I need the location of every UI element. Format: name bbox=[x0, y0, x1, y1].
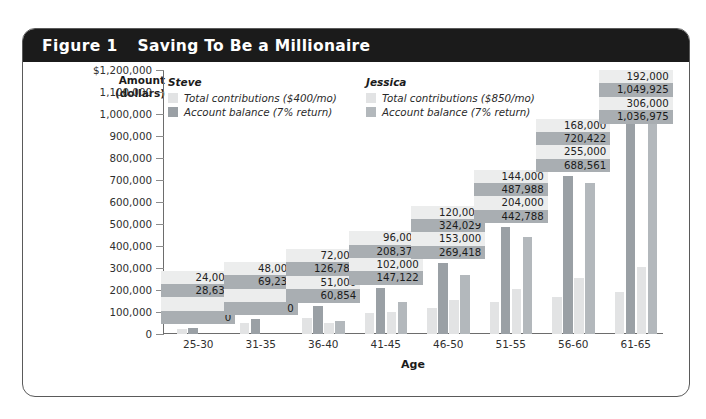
x-axis-label-61-65: 61-65 bbox=[620, 338, 651, 350]
value-label-stack-61-65: 192,0001,049,925306,0001,036,975 bbox=[599, 70, 673, 124]
y-axis-tick-label: 500,000 bbox=[109, 218, 152, 230]
y-axis-tick bbox=[156, 158, 164, 159]
y-axis-tick-label: 1,000,000 bbox=[100, 108, 152, 120]
figure-title: Saving To Be a Millionaire bbox=[138, 37, 371, 55]
y-axis-tick-label: 300,000 bbox=[109, 262, 152, 274]
bar-jess_contrib-61-65 bbox=[637, 267, 647, 334]
bar-jess_balance-46-50 bbox=[460, 275, 470, 334]
figure-header-bar: Figure 1 Saving To Be a Millionaire bbox=[23, 29, 689, 62]
bar-steve_contrib-25-30 bbox=[177, 329, 187, 334]
y-axis-tick-label: 100,000 bbox=[109, 306, 152, 318]
value-label-stack-56-60: 168,000720,422255,000688,561 bbox=[536, 119, 610, 173]
bar-steve_contrib-31-35 bbox=[240, 323, 250, 334]
bar-steve_contrib-46-50 bbox=[427, 308, 437, 334]
y-axis-tick bbox=[156, 92, 164, 93]
value-label-jess_balance-56-60: 688,561 bbox=[536, 159, 610, 172]
y-axis-tick bbox=[156, 114, 164, 115]
x-axis-label-41-45: 41-45 bbox=[370, 338, 401, 350]
bar-jess_balance-41-45 bbox=[398, 302, 408, 334]
y-axis-tick bbox=[156, 70, 164, 71]
value-label-stack-51-55: 144,000487,988204,000442,788 bbox=[474, 170, 548, 224]
y-axis-tick-label: 800,000 bbox=[109, 152, 152, 164]
bar-steve_balance-61-65 bbox=[626, 103, 636, 334]
y-axis-tick-label: 700,000 bbox=[109, 174, 152, 186]
y-axis-tick-label: 900,000 bbox=[109, 130, 152, 142]
x-axis-title: Age bbox=[163, 358, 663, 371]
bar-steve_balance-46-50 bbox=[438, 263, 448, 334]
value-label-jess_balance-51-55: 442,788 bbox=[474, 210, 548, 223]
chart-canvas: Amount (dollars) Steve Total contributio… bbox=[23, 62, 689, 397]
x-axis-label-36-40: 36-40 bbox=[308, 338, 339, 350]
value-label-steve_balance-56-60: 720,422 bbox=[536, 132, 610, 145]
value-label-jess_balance-46-50: 269,418 bbox=[411, 246, 485, 259]
x-axis-label-31-35: 31-35 bbox=[245, 338, 276, 350]
figure-frame: Figure 1 Saving To Be a Millionaire Amou… bbox=[22, 28, 690, 397]
x-axis-tick-labels: 25-3031-3536-4041-4546-5051-5556-6061-65 bbox=[163, 338, 663, 354]
x-axis-label-25-30: 25-30 bbox=[183, 338, 214, 350]
value-label-jess_contrib-46-50: 153,000 bbox=[411, 232, 485, 245]
bar-steve_contrib-61-65 bbox=[615, 292, 625, 334]
value-label-steve_balance-51-55: 487,988 bbox=[474, 183, 548, 196]
bar-steve_balance-36-40 bbox=[313, 306, 323, 334]
bar-steve_balance-41-45 bbox=[376, 288, 386, 334]
bar-steve_balance-31-35 bbox=[251, 319, 261, 334]
value-label-jess_balance-41-45: 147,122 bbox=[349, 271, 423, 284]
y-axis-tick-label: 400,000 bbox=[109, 240, 152, 252]
y-axis-tick bbox=[156, 334, 164, 335]
bar-jess_contrib-51-55 bbox=[512, 289, 522, 334]
y-axis-tick-label: 1,100,000 bbox=[100, 86, 152, 98]
value-label-jess_contrib-61-65: 306,000 bbox=[599, 97, 673, 110]
y-axis-tick-label: 200,000 bbox=[109, 284, 152, 296]
x-axis-label-46-50: 46-50 bbox=[433, 338, 464, 350]
bar-steve_balance-51-55 bbox=[501, 227, 511, 334]
x-axis-label-51-55: 51-55 bbox=[495, 338, 526, 350]
bar-jess_balance-61-65 bbox=[648, 106, 658, 334]
y-axis-tick bbox=[156, 202, 164, 203]
bar-steve_contrib-56-60 bbox=[552, 297, 562, 334]
y-axis-tick bbox=[156, 180, 164, 181]
bar-jess_balance-56-60 bbox=[585, 183, 595, 334]
y-axis-tick bbox=[156, 136, 164, 137]
value-label-steve_balance-61-65: 1,049,925 bbox=[599, 83, 673, 96]
value-label-jess_contrib-41-45: 102,000 bbox=[349, 258, 423, 271]
y-axis-tick-label: 0 bbox=[145, 328, 152, 340]
bar-jess_contrib-36-40 bbox=[324, 323, 334, 334]
value-label-steve_contrib-61-65: 192,000 bbox=[599, 70, 673, 83]
bar-jess_balance-36-40 bbox=[335, 321, 345, 334]
bar-jess_contrib-56-60 bbox=[574, 278, 584, 334]
y-axis-tick bbox=[156, 224, 164, 225]
y-axis-tick bbox=[156, 246, 164, 247]
value-label-jess_balance-31-35: 0 bbox=[224, 302, 298, 315]
bar-jess_contrib-46-50 bbox=[449, 300, 459, 334]
bar-jess_contrib-41-45 bbox=[387, 312, 397, 334]
bar-steve_contrib-51-55 bbox=[490, 302, 500, 334]
y-axis-tick-label: $1,200,000 bbox=[93, 64, 152, 76]
figure-number: Figure 1 bbox=[42, 37, 118, 55]
bar-steve_balance-25-30 bbox=[188, 328, 198, 334]
y-axis-tick bbox=[156, 268, 164, 269]
x-axis-label-56-60: 56-60 bbox=[558, 338, 589, 350]
bar-steve_contrib-36-40 bbox=[302, 318, 312, 334]
value-label-jess_balance-36-40: 60,854 bbox=[286, 289, 360, 302]
value-label-jess_balance-61-65: 1,036,975 bbox=[599, 110, 673, 123]
bar-steve_balance-56-60 bbox=[563, 176, 573, 334]
value-label-jess_contrib-56-60: 255,000 bbox=[536, 145, 610, 158]
y-axis-tick-label: 600,000 bbox=[109, 196, 152, 208]
bar-steve_contrib-41-45 bbox=[365, 313, 375, 334]
plot-area: $1,200,0001,100,0001,000,000900,000800,0… bbox=[163, 70, 663, 334]
bar-jess_balance-51-55 bbox=[523, 237, 533, 334]
value-label-jess_contrib-51-55: 204,000 bbox=[474, 196, 548, 209]
